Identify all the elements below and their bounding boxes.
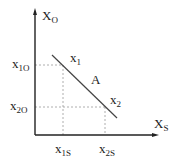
diagram-canvas: XO XS x1O x2O x1S x2S x1 x2 A bbox=[0, 0, 177, 167]
y-tick-x1o: x1O bbox=[12, 56, 30, 73]
x-tick-x2s: x2S bbox=[99, 141, 115, 158]
point-label-x2: x2 bbox=[110, 92, 121, 109]
point-label-x1: x1 bbox=[70, 50, 81, 67]
line-label-a: A bbox=[91, 72, 101, 87]
y-axis-arrow-icon bbox=[33, 8, 37, 15]
x-axis-label: XS bbox=[154, 116, 168, 133]
x-tick-x1s: x1S bbox=[55, 141, 71, 158]
y-tick-x2o: x2O bbox=[10, 98, 28, 115]
line-a bbox=[52, 55, 117, 118]
x-axis-arrow-icon bbox=[152, 133, 159, 137]
y-axis-label: XO bbox=[42, 8, 58, 25]
